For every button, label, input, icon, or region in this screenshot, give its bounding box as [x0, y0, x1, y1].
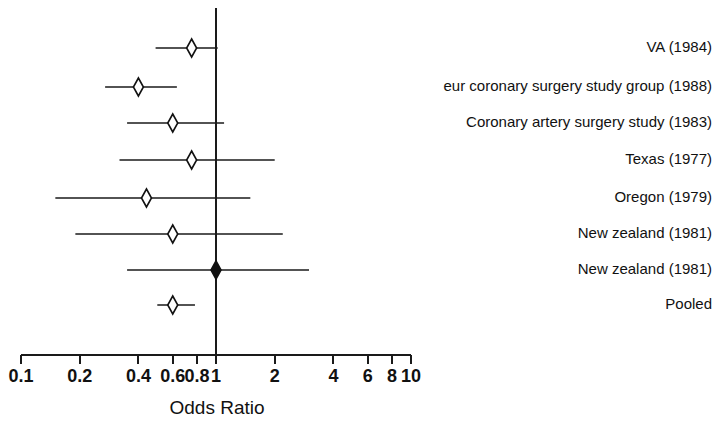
effect-estimate-marker [141, 189, 151, 207]
study-row [157, 296, 195, 314]
forest-plot: 0.10.20.40.60.81246810 VA (1984)eur coro… [0, 0, 722, 422]
study-row [127, 261, 309, 279]
study-label: New zealand (1981) [578, 224, 712, 241]
x-axis-tick-label: 1 [211, 366, 221, 386]
study-row [156, 39, 218, 57]
effect-estimate-marker [168, 225, 178, 243]
x-axis-tick-label: 2 [270, 366, 280, 386]
effect-estimate-marker [133, 78, 143, 96]
effect-estimate-marker [187, 39, 197, 57]
x-axis-title: Odds Ratio [169, 397, 264, 418]
x-axis-tick-label: 0.2 [67, 366, 92, 386]
x-axis-tick-label: 4 [328, 366, 338, 386]
forest-plot-canvas: 0.10.20.40.60.81246810 VA (1984)eur coro… [0, 0, 722, 422]
effect-estimate-marker [187, 151, 197, 169]
study-row [75, 225, 282, 243]
x-axis-tick-label: 8 [387, 366, 397, 386]
study-label: VA (1984) [646, 38, 712, 55]
x-axis-tick-label: 10 [401, 366, 421, 386]
study-row [127, 114, 224, 132]
x-axis-tick-label: 6 [363, 366, 373, 386]
study-label: Texas (1977) [625, 150, 712, 167]
effect-estimate-marker [168, 114, 178, 132]
study-row [120, 151, 275, 169]
study-label: Pooled [665, 295, 712, 312]
study-label: Oregon (1979) [614, 188, 712, 205]
study-row [55, 189, 250, 207]
study-rows-group [55, 39, 309, 314]
study-labels-group: VA (1984)eur coronary surgery study grou… [444, 38, 712, 312]
x-axis-tick-label: 0.8 [185, 366, 210, 386]
x-axis-tick-label: 0.4 [126, 366, 151, 386]
effect-estimate-marker [168, 296, 178, 314]
study-label: eur coronary surgery study group (1988) [444, 77, 712, 94]
x-axis-group: 0.10.20.40.60.81246810 [8, 355, 421, 386]
effect-estimate-marker [211, 261, 221, 279]
study-label: Coronary artery surgery study (1983) [466, 113, 712, 130]
x-axis-tick-label: 0.1 [8, 366, 33, 386]
x-axis-tick-label: 0.6 [160, 366, 185, 386]
study-row [105, 78, 177, 96]
study-label: New zealand (1981) [578, 260, 712, 277]
